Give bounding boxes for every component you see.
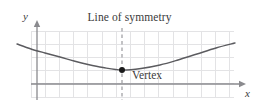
line-of-symmetry-label: Line of symmetry: [0, 12, 259, 24]
vertex-point: [119, 67, 125, 73]
axes: [31, 20, 246, 100]
y-axis-label: y: [23, 11, 28, 22]
vertex-label: Vertex: [132, 70, 162, 82]
parabola-figure: Line of symmetry Vertex y x: [0, 0, 259, 106]
x-axis-label: x: [245, 88, 250, 99]
grid-lines: [31, 31, 234, 97]
parabola-curve: [17, 43, 235, 70]
